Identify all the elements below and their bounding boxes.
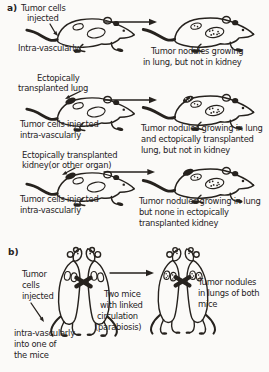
row3-result-label-line: Tumor nodules growing in lung xyxy=(139,197,261,205)
section-a-label: a) xyxy=(7,4,17,13)
row3-transplant-label-line: Ectopically transplanted xyxy=(22,151,117,159)
b-parabiosis-label-line: (parabiosis) xyxy=(95,323,141,331)
row2-inject-label-line: Tumor cells injected xyxy=(20,120,98,128)
section-b-label: b) xyxy=(8,248,19,257)
b-parabiosis-label-line: circulation xyxy=(97,312,138,320)
row1-route-label: Intra-vascularly xyxy=(18,44,79,52)
b-inject-label-line: Tumor xyxy=(22,270,47,278)
b-inject-label-line: cells xyxy=(22,281,40,289)
row3-inject-label-line: intra-vascularly xyxy=(20,206,81,214)
row2-transplant-label-line: Ectopically xyxy=(37,74,80,82)
row2-result-label-line: lung, but not in kidney xyxy=(141,146,230,154)
row3-result-label-line: transplanted kidney xyxy=(139,219,218,227)
row2-inject-label-line: intra-vascularly xyxy=(20,131,81,139)
row1-result-label-line: Tumor nodules growing xyxy=(151,47,243,55)
injection-pointer-arrow-icon xyxy=(28,301,52,327)
b-result-label-line: in lungs of both xyxy=(198,289,259,297)
row2-result-label-line: and ectopically transplanted xyxy=(141,135,254,143)
row3-result-label-line: but none in ectopically xyxy=(139,208,229,216)
figure-canvas: a) Tumor cells injected Intra-vascularly… xyxy=(0,0,269,372)
b-parabiosis-label-line: with linked xyxy=(100,301,143,309)
b-inject-label-line: injected xyxy=(22,292,53,300)
b-route-label-line: the mice xyxy=(14,351,49,359)
b-result-label-line: mice xyxy=(198,300,217,308)
b-result-label-line: Tumor nodules xyxy=(198,278,256,286)
b-route-label-line: into one of xyxy=(14,340,56,348)
row1-result-label-line: in lung, but not in kidney xyxy=(143,58,242,66)
b-route-label-line: intra-vascularly xyxy=(14,329,75,337)
row2-result-label-line: Tumor nodules growing in lung xyxy=(141,124,263,132)
row3-inject-label-line: Tumor cells injected xyxy=(20,195,98,203)
b-parabiosis-label-line: Two mice xyxy=(104,290,141,298)
